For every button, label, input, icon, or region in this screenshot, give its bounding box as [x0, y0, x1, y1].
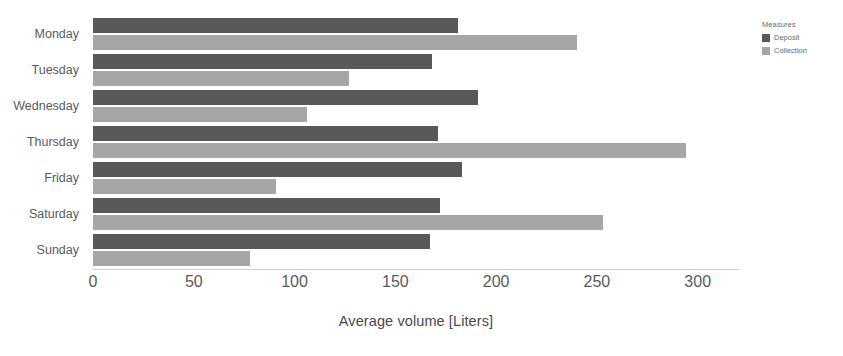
legend-item-deposit[interactable]: Deposit: [762, 33, 840, 42]
bar-monday-deposit[interactable]: [93, 18, 458, 33]
bar-sunday-deposit[interactable]: [93, 234, 430, 249]
plot-area: [93, 17, 738, 269]
bar-wednesday-collection[interactable]: [93, 107, 307, 122]
bar-tuesday-deposit[interactable]: [93, 54, 432, 69]
y-axis-label-tuesday: Tuesday: [32, 63, 79, 77]
y-axis-label-saturday: Saturday: [29, 207, 79, 221]
bar-group: [93, 162, 738, 194]
legend-swatch-icon: [762, 34, 770, 42]
legend-title: Measures: [762, 20, 840, 29]
x-axis-tick-250: 250: [584, 273, 611, 291]
y-axis-label-sunday: Sunday: [37, 243, 79, 257]
x-axis-tick-200: 200: [483, 273, 510, 291]
bar-group: [93, 234, 738, 266]
legend-items: DepositCollection: [762, 33, 840, 55]
bar-monday-collection[interactable]: [93, 35, 577, 50]
bar-tuesday-collection[interactable]: [93, 71, 349, 86]
y-axis-labels: MondayTuesdayWednesdayThursdayFridaySatu…: [0, 17, 86, 269]
x-axis-tick-100: 100: [281, 273, 308, 291]
bar-thursday-deposit[interactable]: [93, 126, 438, 141]
x-axis-tick-50: 50: [185, 273, 203, 291]
bar-sunday-collection[interactable]: [93, 251, 250, 266]
x-axis-title: Average volume [Liters]: [93, 313, 739, 329]
x-axis-line: [93, 269, 739, 270]
y-axis-label-friday: Friday: [44, 171, 79, 185]
legend-item-collection[interactable]: Collection: [762, 46, 840, 55]
bar-wednesday-deposit[interactable]: [93, 90, 478, 105]
bar-group: [93, 18, 738, 50]
bar-saturday-collection[interactable]: [93, 215, 603, 230]
x-axis-tick-150: 150: [382, 273, 409, 291]
x-axis-tick-300: 300: [684, 273, 711, 291]
bar-saturday-deposit[interactable]: [93, 198, 440, 213]
bar-group: [93, 198, 738, 230]
x-axis-tick-0: 0: [89, 273, 98, 291]
bar-friday-collection[interactable]: [93, 179, 276, 194]
y-axis-label-thursday: Thursday: [27, 135, 79, 149]
bar-friday-deposit[interactable]: [93, 162, 462, 177]
bar-chart: MondayTuesdayWednesdayThursdayFridaySatu…: [0, 0, 843, 356]
bar-group: [93, 90, 738, 122]
x-axis-ticks: 050100150200250300: [0, 273, 843, 295]
bar-thursday-collection[interactable]: [93, 143, 686, 158]
bar-group: [93, 54, 738, 86]
legend-label: Collection: [774, 46, 807, 55]
y-axis-label-monday: Monday: [35, 27, 79, 41]
legend-label: Deposit: [774, 33, 799, 42]
chart-legend: Measures DepositCollection: [762, 20, 840, 59]
bar-group: [93, 126, 738, 158]
legend-swatch-icon: [762, 47, 770, 55]
y-axis-label-wednesday: Wednesday: [13, 99, 79, 113]
